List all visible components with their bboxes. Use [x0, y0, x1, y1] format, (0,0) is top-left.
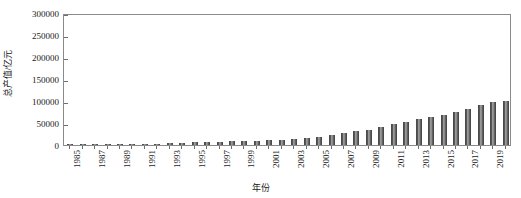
y-tick-label: 0 — [55, 141, 60, 151]
x-tick-mark — [505, 146, 506, 149]
bar — [291, 139, 297, 145]
bar — [266, 140, 272, 145]
x-tick-mark — [418, 146, 419, 149]
x-tick-label: 1991 — [148, 150, 157, 168]
bar — [92, 144, 98, 145]
y-tick-mark — [64, 103, 68, 104]
bar — [465, 109, 471, 145]
bar — [428, 117, 434, 145]
x-tick-label: 1999 — [247, 150, 256, 168]
x-tick-mark — [430, 146, 431, 149]
bar — [217, 142, 223, 145]
bar — [142, 144, 148, 145]
x-tick-mark — [194, 146, 195, 149]
x-tick-mark — [380, 146, 381, 149]
x-tick-mark — [467, 146, 468, 149]
bar — [279, 140, 285, 145]
x-tick-label: 1995 — [198, 150, 207, 168]
bar — [490, 102, 496, 145]
y-tick-mark — [64, 37, 68, 38]
plot-area — [63, 14, 511, 146]
y-tick-label: 300000 — [32, 9, 59, 19]
x-tick-mark — [355, 146, 356, 149]
bar — [117, 144, 123, 145]
y-axis-tick-labels: 050000100000150000200000250000300000 — [14, 14, 62, 146]
x-tick-mark — [206, 146, 207, 149]
x-tick-label: 1993 — [173, 150, 182, 168]
bar — [503, 101, 509, 145]
x-tick-mark — [393, 146, 394, 149]
x-tick-mark — [368, 146, 369, 149]
bar — [316, 137, 322, 145]
x-tick-label: 2019 — [496, 150, 505, 168]
bar-chart: 总产值/亿元 050000100000150000200000250000300… — [0, 0, 521, 198]
x-tick-mark — [219, 146, 220, 149]
x-tick-label: 2015 — [447, 150, 456, 168]
bars-layer — [64, 15, 510, 145]
bar — [179, 143, 185, 145]
x-tick-label: 1989 — [123, 150, 132, 168]
y-tick-mark — [64, 59, 68, 60]
x-tick-label: 2017 — [471, 150, 480, 168]
bar — [341, 133, 347, 145]
bar — [241, 141, 247, 145]
x-tick-label: 1997 — [223, 150, 232, 168]
y-tick-mark — [64, 15, 68, 16]
y-tick-label: 50000 — [37, 119, 60, 129]
x-tick-mark — [119, 146, 120, 149]
x-tick-label: 2005 — [322, 150, 331, 168]
bar — [441, 115, 447, 145]
x-tick-mark — [231, 146, 232, 149]
x-tick-mark — [306, 146, 307, 149]
x-tick-mark — [82, 146, 83, 149]
x-tick-mark — [156, 146, 157, 149]
x-tick-label: 2007 — [347, 150, 356, 168]
y-tick-mark — [64, 81, 68, 82]
x-tick-mark — [144, 146, 145, 149]
x-tick-label: 2003 — [297, 150, 306, 168]
x-axis-tick-labels: 1985198719891991199319951997199920012003… — [63, 150, 511, 180]
x-tick-label: 1985 — [73, 150, 82, 168]
x-tick-mark — [455, 146, 456, 149]
x-tick-mark — [94, 146, 95, 149]
x-tick-label: 2011 — [397, 150, 406, 168]
x-tick-label: 2001 — [272, 150, 281, 168]
bar — [353, 131, 359, 145]
bar — [453, 112, 459, 145]
y-tick-label: 150000 — [32, 75, 59, 85]
bar — [416, 119, 422, 145]
x-tick-mark — [293, 146, 294, 149]
x-tick-mark — [243, 146, 244, 149]
bar — [254, 141, 260, 145]
x-tick-mark — [281, 146, 282, 149]
y-tick-label: 250000 — [32, 31, 59, 41]
x-tick-label: 2009 — [372, 150, 381, 168]
bar — [378, 127, 384, 145]
bar — [67, 144, 73, 145]
x-tick-mark — [331, 146, 332, 149]
bar — [80, 144, 86, 145]
y-axis-title-text: 总产值/亿元 — [2, 49, 15, 97]
x-tick-mark — [318, 146, 319, 149]
bar — [229, 141, 235, 145]
x-tick-mark — [69, 146, 70, 149]
y-tick-mark — [64, 125, 68, 126]
bar — [105, 144, 111, 145]
bar — [366, 130, 372, 145]
bar — [192, 142, 198, 145]
bar — [403, 122, 409, 145]
x-tick-mark — [492, 146, 493, 149]
x-axis-title: 年份 — [0, 181, 521, 194]
x-tick-mark — [169, 146, 170, 149]
bar — [167, 143, 173, 145]
x-tick-mark — [131, 146, 132, 149]
bar — [304, 138, 310, 145]
y-tick-label: 100000 — [32, 97, 59, 107]
x-tick-mark — [443, 146, 444, 149]
x-tick-mark — [343, 146, 344, 149]
bar — [478, 105, 484, 145]
bar — [154, 144, 160, 145]
x-tick-label: 1987 — [98, 150, 107, 168]
bar — [329, 135, 335, 145]
x-tick-mark — [107, 146, 108, 149]
